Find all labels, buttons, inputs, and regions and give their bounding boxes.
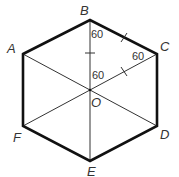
- vertex-label-a: A: [6, 41, 16, 56]
- vertex-label-c: C: [160, 39, 170, 54]
- vertex-label-f: F: [13, 130, 22, 145]
- hexagon-diagram: B C A D E F O 60 60 60: [0, 0, 179, 177]
- vertex-label-d: D: [160, 127, 169, 142]
- vertex-label-e: E: [87, 164, 96, 177]
- angle-label-60-center: 60: [92, 69, 104, 81]
- center-label-o: O: [91, 95, 101, 110]
- angle-label-60-c: 60: [132, 50, 144, 62]
- angle-label-60-top: 60: [91, 28, 103, 40]
- vertex-label-b: B: [80, 3, 89, 18]
- center-point-o: [89, 89, 92, 92]
- tick-mark-oc: [121, 67, 127, 76]
